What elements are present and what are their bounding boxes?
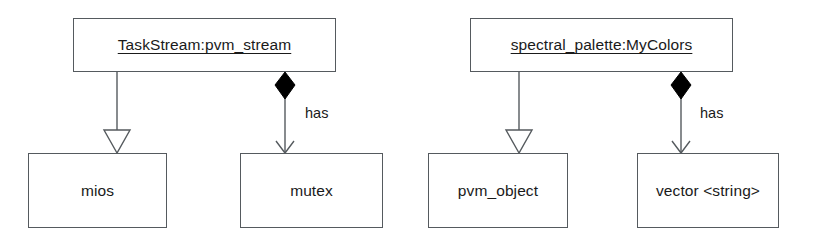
generalization-taskstream-to-mios [104,72,130,153]
object-box-spectral-palette[interactable]: spectral_palette:MyColors [470,18,733,72]
object-box-spectral-palette-label: spectral_palette:MyColors [511,36,693,54]
filled-diamond-mutex [275,72,295,99]
generalization-spectralpalette-to-pvmobject [506,72,532,153]
object-box-pvm-object[interactable]: pvm_object [428,153,568,228]
object-box-mios-label: mios [81,182,114,200]
open-arrowhead-mutex [276,141,294,153]
edge-label-has-vector: has [700,105,723,121]
edge-label-has-mutex: has [305,105,328,121]
uml-diagram-canvas: TaskStream:pvm_stream mios mutex has spe… [0,0,819,243]
hollow-triangle-arrowhead-mios [104,130,130,153]
object-box-pvm-object-label: pvm_object [458,182,538,200]
composition-spectralpalette-to-vector [671,72,691,153]
object-box-mutex[interactable]: mutex [240,153,383,228]
filled-diamond-vector [671,72,691,99]
object-box-taskstream[interactable]: TaskStream:pvm_stream [73,18,336,72]
object-box-vector-string[interactable]: vector <string> [637,153,779,228]
hollow-triangle-arrowhead-pvm-object [506,130,532,153]
open-arrowhead-vector [672,141,690,153]
composition-taskstream-to-mutex [275,72,295,153]
object-box-taskstream-label: TaskStream:pvm_stream [118,36,292,54]
object-box-vector-string-label: vector <string> [656,182,760,200]
object-box-mutex-label: mutex [290,182,333,200]
object-box-mios[interactable]: mios [28,153,167,228]
